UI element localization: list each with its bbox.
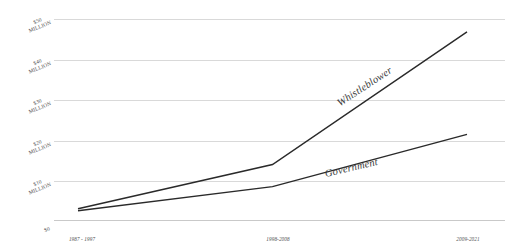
- x-tick-label-2009-2021: 2009-2021: [456, 236, 479, 243]
- series-line-whistleblower: [78, 32, 467, 209]
- y-tick-label-10: $10 MILLION: [26, 175, 53, 196]
- y-tick-label-40: $40 MILLION: [26, 54, 53, 75]
- y-tick-label-20: $20 MILLION: [26, 135, 53, 156]
- y-tick-label-50: $50 MILLION: [26, 13, 53, 34]
- series-lines: [54, 12, 505, 220]
- series-line-government: [78, 134, 467, 210]
- gridline-baseline-0: [54, 220, 505, 221]
- y-tick-label-0: $0: [44, 225, 52, 233]
- line-chart: $50 MILLION $40 MILLION $30 MILLION $20 …: [0, 0, 521, 244]
- x-tick-label-1987-1997: 1987 - 1997: [69, 236, 95, 243]
- y-tick-label-30: $30 MILLION: [26, 94, 53, 115]
- plot-area: 1987 - 1997 1998-2008 2009-2021: [54, 12, 505, 220]
- x-tick-label-1998-2008: 1998-2008: [266, 236, 289, 243]
